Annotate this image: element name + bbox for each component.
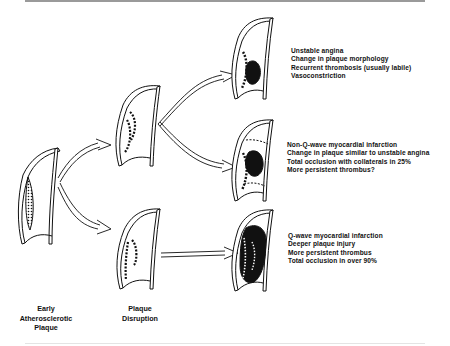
arrow-disruption-to-unstable-angina <box>158 71 236 126</box>
outcome-line: Vasoconstriction <box>291 72 411 80</box>
arrow-early-to-disruption <box>58 139 111 182</box>
vessel-non-q-wave-mi <box>232 120 273 201</box>
outcome-line: More persistent thrombus <box>288 249 383 257</box>
outcome-line: Deeper plaque injury <box>288 240 383 248</box>
stage-label-line: Plaque <box>110 304 170 314</box>
outcome-line: Total occlusion with collaterals in 25% <box>287 158 429 166</box>
vessel-early-plaque <box>18 148 60 244</box>
vessel-deep-plaque-disruption <box>117 209 160 289</box>
stage-label-line: Disruption <box>110 314 170 324</box>
thrombus-small <box>246 61 261 84</box>
outcome-line: Total occlusion in over 90% <box>288 257 383 265</box>
arrow-disruption-to-non-q-mi <box>158 122 236 172</box>
outcome-line: Non-Q-wave myocardial infarction <box>287 141 429 149</box>
thrombus-medium <box>245 151 263 176</box>
outcome-line: Change in plaque morphology <box>291 55 411 63</box>
stage-label-plaque-disruption: Plaque Disruption <box>110 304 170 323</box>
outcome-unstable-angina: Unstable angina Change in plaque morphol… <box>291 47 411 80</box>
outcome-line: More persistent thrombus? <box>287 166 429 174</box>
outcome-line: Change in plaque similar to unstable ang… <box>287 149 429 157</box>
stage-label-line: Atherosclerotic <box>6 314 86 324</box>
outcome-line: Recurrent thrombosis (usually labile) <box>291 64 411 72</box>
stage-label-early-plaque: Early Atherosclerotic Plaque <box>6 304 86 333</box>
outcome-line: Q-wave myocardial infarction <box>288 232 383 240</box>
plaque-early <box>26 177 33 230</box>
stage-label-line: Early <box>6 304 86 314</box>
vessel-q-wave-mi <box>232 210 273 291</box>
vessel-plaque-disruption <box>116 86 160 166</box>
outcome-non-q-wave-mi: Non-Q-wave myocardial infarction Change … <box>287 141 429 174</box>
outcome-q-wave-mi: Q-wave myocardial infarction Deeper plaq… <box>288 232 383 265</box>
outcome-line: Unstable angina <box>291 47 411 55</box>
arrow-deep-disruption-to-q-mi <box>161 247 238 259</box>
vessel-unstable-angina <box>232 18 273 99</box>
stage-label-line: Plaque <box>6 323 86 333</box>
arrow-early-to-deep-disruption <box>58 183 111 234</box>
